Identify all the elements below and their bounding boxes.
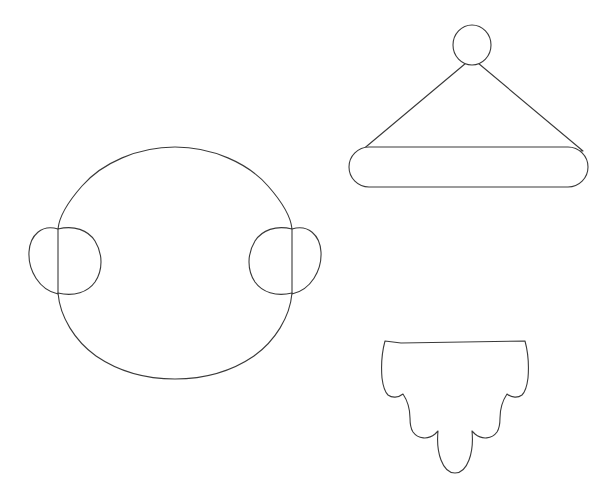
hat-brim xyxy=(349,147,588,187)
shape-canvas-svg xyxy=(0,0,603,478)
hat-pompom xyxy=(453,25,491,65)
template-canvas xyxy=(0,0,603,478)
